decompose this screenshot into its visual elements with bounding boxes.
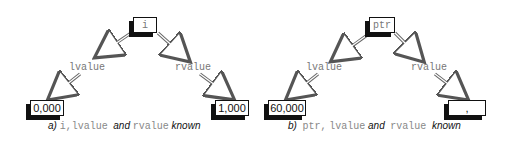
root-label: i [142,20,148,31]
caption-b: b) ptr, lvalue and rvalue known [288,120,461,132]
rvalue-label-a: rvalue [175,62,211,73]
caption-b-code1b: lvalue [329,121,365,132]
caption-a-code1: i,lvalue [60,121,108,132]
lvalue-label-b: lvalue [306,62,342,73]
rvalue-value-a: 1,000 [218,102,246,114]
caption-b-code1: ptr, [302,121,326,132]
lvalue-box-a: 0,000 [30,100,64,116]
caption-b-prefix: b) [288,120,297,131]
caption-a-code2: rvalue [133,121,169,132]
caption-b-suffix: known [432,120,461,131]
caption-b-code2: rvalue [390,121,426,132]
caption-a-and: and [113,120,130,131]
root-label: ptr [373,20,391,31]
lvalue-value-b: 60,000 [270,102,304,114]
rvalue-label-b: rvalue [411,62,447,73]
lvalue-rvalue-diagram: i lvalue rvalue 0,000 1,000 a) i,lvalue … [0,0,510,146]
caption-a: a) i,lvalue and rvalue known [48,120,200,132]
caption-a-suffix: known [172,120,201,131]
caption-b-and: and [368,120,385,131]
lvalue-box-b: 60,000 [268,100,306,116]
root-node-i: i [133,17,157,33]
root-node-ptr: ptr [369,17,395,33]
caption-a-prefix: a) [48,120,57,131]
lvalue-value-a: 0,000 [33,102,61,114]
rvalue-box-b: , [448,100,486,116]
rvalue-value-b: , [465,102,468,114]
lvalue-label-a: lvalue [69,62,105,73]
rvalue-box-a: 1,000 [215,100,249,116]
